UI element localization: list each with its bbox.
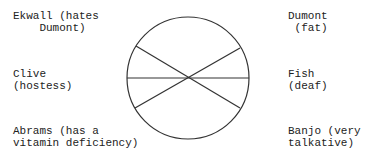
- label-dumont: Dumont (fat): [288, 10, 328, 34]
- label-fish: Fish (deaf): [288, 68, 328, 92]
- label-abrams: Abrams (has a vitamin deficiency): [13, 125, 138, 149]
- label-banjo: Banjo (very talkative): [288, 125, 361, 149]
- label-ekwall: Ekwall (hates Dumont): [13, 10, 99, 34]
- label-clive: Clive (hostess): [13, 68, 72, 92]
